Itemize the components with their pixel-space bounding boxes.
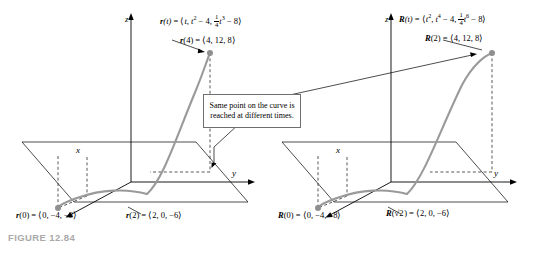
right-axis-label-x: x xyxy=(336,145,340,155)
left-label-r-of-2: r(2) = ⟨2, 0, −6⟩ xyxy=(126,211,182,221)
left-label-r-of-4: r(4) = ⟨4, 12, 8⟩ xyxy=(180,36,236,46)
right-axis-label-z: z xyxy=(385,14,389,24)
right-axis-label-y: y xyxy=(494,168,498,178)
left-axis-label-z: z xyxy=(125,14,129,24)
left-label-r-of-0: r(0) = ⟨0, −4, −8⟩ xyxy=(16,211,77,221)
figure-container: z x y r(t) = ⟨t, t2 − 4, 14t3 − 8⟩ r(4) … xyxy=(0,0,558,256)
callout-text: Same point on the curve is reached at di… xyxy=(207,101,297,120)
left-label-r-definition: r(t) = ⟨t, t2 − 4, 14t3 − 8⟩ xyxy=(160,14,242,28)
figure-caption: FIGURE 12.84 xyxy=(8,232,75,243)
right-label-R-of-2: R(2) = ⟨4, 12, 8⟩ xyxy=(425,34,483,44)
left-axis-label-x: x xyxy=(76,145,80,155)
left-axis-label-y: y xyxy=(232,168,236,178)
right-label-R-of-0: R(0) = ⟨0, −4, −8⟩ xyxy=(278,211,341,221)
right-label-R-of-sqrt2: R(√2 ) = ⟨2, 0, −6⟩ xyxy=(386,209,450,219)
right-label-R-definition: R(t) = ⟨t2, t4 − 4, 14t6 − 8⟩ xyxy=(399,12,486,26)
callout-box: Same point on the curve is reached at di… xyxy=(203,94,301,128)
